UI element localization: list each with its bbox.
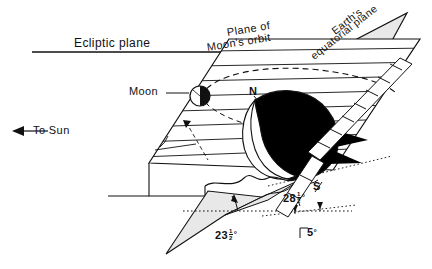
angle-28-5-fraction: 1 2 xyxy=(297,191,302,204)
ecliptic-wedge-lower xyxy=(166,191,262,254)
south-pole-label: S xyxy=(313,180,321,192)
angle-label-5: 5 ° xyxy=(307,226,317,238)
to-sun-label: To Sun xyxy=(33,124,70,136)
angle-label-28-5: 28 1 2 ° xyxy=(283,191,305,204)
north-pole-label: N xyxy=(249,85,257,97)
moon-plane-edge-skirt xyxy=(149,163,205,196)
angle-28-5-whole: 28 xyxy=(283,192,296,204)
moon-label: Moon xyxy=(129,85,158,97)
angle-5-unit: ° xyxy=(314,228,318,237)
angle-28-5-unit: ° xyxy=(302,193,306,202)
angle-23-5-whole: 23 xyxy=(215,229,228,241)
ecliptic-plane-label: Ecliptic plane xyxy=(74,36,150,50)
angle-label-23-5: 23 1 2 ° xyxy=(215,228,237,241)
angle-23-5-unit: ° xyxy=(234,230,238,239)
diagram-canvas: Ecliptic plane Plane of Moon's orbit Ear… xyxy=(0,0,432,269)
angle-23-5-fraction: 1 2 xyxy=(229,228,234,241)
moon-globe-icon xyxy=(190,86,210,106)
